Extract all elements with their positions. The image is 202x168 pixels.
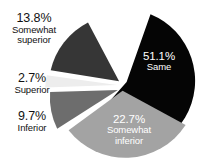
slice-name-inferior: Inferior: [0, 123, 65, 133]
slice-name-somewhat-superior-line2: superior: [1, 35, 67, 45]
slice-percent-inferior: 9.7%: [0, 110, 65, 123]
slice-name-inferior-line1: Inferior: [0, 123, 65, 133]
slice-label-superior: 2.7% Superior: [0, 72, 65, 95]
slice-percent-superior: 2.7%: [0, 72, 65, 85]
slice-name-same: Same: [128, 62, 190, 72]
slice-label-somewhat-superior: 13.8% Somewhat superior: [1, 12, 67, 45]
pie-chart-figure: 13.8% Somewhat superior 2.7% Superior 9.…: [0, 0, 202, 168]
slice-label-inferior: 9.7% Inferior: [0, 110, 65, 133]
slice-name-somewhat-inferior: Somewhat inferior: [95, 125, 163, 146]
slice-name-same-line1: Same: [128, 62, 190, 72]
slice-name-somewhat-inferior-line2: inferior: [95, 136, 163, 146]
slice-label-same: 51.1% Same: [128, 50, 190, 73]
slice-name-superior-line1: Superior: [0, 85, 65, 95]
slice-name-somewhat-superior: Somewhat superior: [1, 25, 67, 45]
slice-percent-somewhat-superior: 13.8%: [1, 12, 67, 25]
slice-name-superior: Superior: [0, 85, 65, 95]
slice-label-somewhat-inferior: 22.7% Somewhat inferior: [95, 113, 163, 146]
